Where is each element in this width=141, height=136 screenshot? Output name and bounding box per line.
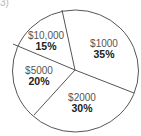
slice-percent: 30%	[62, 103, 102, 114]
slice-percent: 35%	[84, 49, 124, 60]
slice-percent: 20%	[21, 76, 57, 87]
slice-label-10000: $10,000 15%	[26, 30, 66, 52]
slice-percent: 15%	[26, 41, 66, 52]
slice-label-5000: $5000 20%	[21, 65, 57, 87]
slice-label-2000: $2000 30%	[62, 92, 102, 114]
slice-label-1000: $1000 35%	[84, 38, 124, 60]
